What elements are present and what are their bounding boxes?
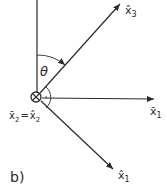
angle-dot — [45, 96, 47, 98]
x3-hat-label: x̂3 — [125, 4, 137, 19]
theta-label: θ — [40, 64, 48, 79]
panel-label: b) — [10, 169, 24, 185]
x1-bar-axis-arrow — [42, 98, 154, 99]
circled-cross-icon — [31, 92, 41, 102]
x1-hat-axis-arrow — [41, 101, 113, 169]
x1-hat-label: x̂1 — [118, 169, 130, 184]
x1-bar-label: x̄1 — [150, 105, 162, 120]
origin-label: x̄2=x̂2 — [9, 110, 40, 124]
rotation-diagram: θ x̂3 x̄1 x̂1 x̄2=x̂2 b) — [0, 0, 167, 187]
x3-hat-axis-arrow — [40, 4, 120, 93]
